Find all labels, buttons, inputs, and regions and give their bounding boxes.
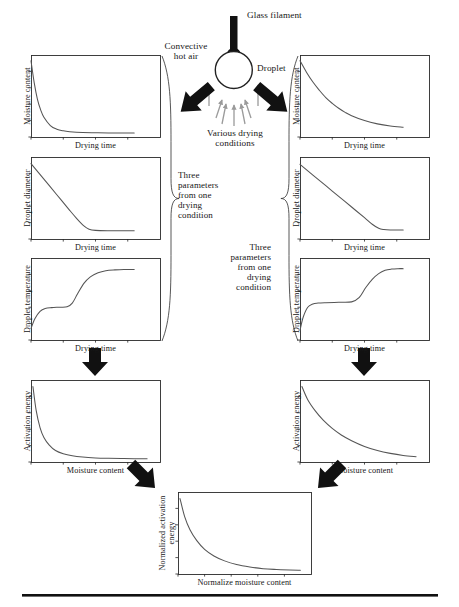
x-axis-label: Moisture content xyxy=(67,466,124,475)
glass-filament-label: Glass filament xyxy=(247,10,302,20)
plot-left-diameter xyxy=(28,158,160,242)
x-axis-label: Drying time xyxy=(75,141,116,150)
brace-left-annotation: Three parameters from one drying conditi… xyxy=(178,170,236,220)
air-flow-arrow-3 xyxy=(216,100,222,118)
diagram-vector-layer xyxy=(0,0,459,607)
split-arrow-right xyxy=(249,77,296,122)
y-axis-label: Moisture content xyxy=(23,55,32,137)
y-axis-label: Normalized activation energy xyxy=(158,492,176,574)
brace-right-annotation: Three parameters from one drying conditi… xyxy=(213,242,271,292)
series-line xyxy=(302,387,416,457)
x-axis-label: Drying time xyxy=(344,141,385,150)
series-line xyxy=(31,164,134,231)
y-axis-label: Moisture content xyxy=(292,55,301,137)
series-line xyxy=(31,61,134,133)
x-axis-label: Drying time xyxy=(75,344,116,353)
x-axis-label: Normalize moisture content xyxy=(198,578,292,587)
glass-filament-rod xyxy=(230,16,238,50)
converge-arrow-right xyxy=(309,455,351,497)
plot-left-activation xyxy=(28,381,160,465)
various-drying-conditions-label: Various drying conditions xyxy=(189,128,281,149)
y-axis-label: Droplet temperature xyxy=(292,258,301,340)
y-axis-label: Activation energy xyxy=(292,380,301,462)
series-line xyxy=(31,269,134,328)
plot-right-activation xyxy=(297,381,429,465)
plot-right-temperature xyxy=(297,259,429,343)
brace-left-group xyxy=(162,56,179,341)
air-flow-arrow-5 xyxy=(222,104,226,124)
plot-right-moisture xyxy=(297,56,429,140)
plot-bottom-normalized xyxy=(175,493,311,577)
x-axis-label: Drying time xyxy=(75,243,116,252)
x-axis-label: Moisture content xyxy=(336,466,393,475)
series-line xyxy=(300,269,403,331)
convective-hot-air-label: Convective hot air xyxy=(155,41,217,62)
figure-canvas: Drying timeMoisture contentDrying timeDr… xyxy=(0,0,459,607)
plot-left-temperature xyxy=(28,259,160,343)
y-axis-label: Droplet diameter xyxy=(23,157,32,239)
series-line xyxy=(180,499,300,571)
y-axis-label: Droplet temperature xyxy=(23,258,32,340)
bottom-divider-rule xyxy=(22,594,438,597)
air-flow-arrow-6 xyxy=(241,104,245,124)
series-line xyxy=(300,61,403,127)
plot-right-diameter xyxy=(297,158,429,242)
x-axis-label: Drying time xyxy=(344,344,385,353)
y-axis-label: Activation energy xyxy=(23,380,32,462)
x-axis-label: Drying time xyxy=(344,243,385,252)
split-arrow-left xyxy=(173,77,220,122)
series-line xyxy=(300,164,403,230)
droplet-label: Droplet xyxy=(257,63,286,73)
droplet-circle xyxy=(215,52,252,89)
series-line xyxy=(33,387,147,459)
air-flow-arrow-4 xyxy=(245,100,251,118)
y-axis-label: Droplet diameter xyxy=(292,157,301,239)
converge-arrow-left xyxy=(122,455,164,497)
plot-left-moisture xyxy=(28,56,160,140)
